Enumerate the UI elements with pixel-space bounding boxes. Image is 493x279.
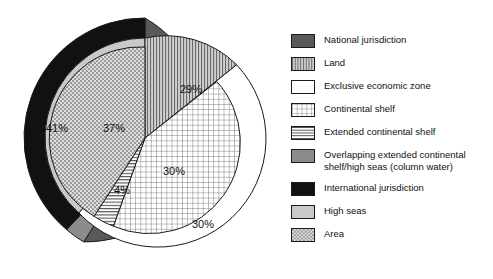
legend-label-exclusive-economic-zone: Exclusive economic zone bbox=[324, 79, 431, 92]
legend-label-national-jurisdiction: National jurisdiction bbox=[324, 33, 406, 46]
legend-label-international-jurisdiction: International jurisdiction bbox=[324, 181, 424, 194]
data-label-land: 29% bbox=[180, 83, 202, 95]
swatch-vertical-lines-icon bbox=[291, 57, 315, 71]
legend-label-continental-shelf: Continental shelf bbox=[324, 102, 395, 115]
pie-chart-graphic: 29% 30% 30% 4% 37% 41% bbox=[0, 0, 300, 279]
legend-label-high-seas: High seas bbox=[324, 204, 366, 217]
legend-item-national-jurisdiction: National jurisdiction bbox=[291, 33, 491, 53]
legend-label-extended-continental-shelf: Extended continental shelf bbox=[324, 125, 435, 138]
data-label-continental-shelf: 30% bbox=[163, 165, 185, 177]
legend-item-land: Land bbox=[291, 56, 491, 76]
data-label-exclusive-economic-zone: 30% bbox=[192, 218, 214, 230]
swatch-solid-light-gray-icon bbox=[291, 205, 315, 219]
legend-item-high-seas: High seas bbox=[291, 204, 491, 224]
data-label-area: 37% bbox=[103, 122, 125, 134]
legend-item-area: Area bbox=[291, 227, 491, 247]
pie-chart-figure: 29% 30% 30% 4% 37% 41% National jurisdic… bbox=[0, 0, 493, 279]
legend-item-international-jurisdiction: International jurisdiction bbox=[291, 181, 491, 201]
legend-item-extended-continental-shelf: Extended continental shelf bbox=[291, 125, 491, 145]
legend-label-land: Land bbox=[324, 56, 345, 69]
data-label-extended-continental-shelf: 4% bbox=[114, 184, 130, 196]
legend-item-overlapping-shelf-high-seas: Overlapping extended continental shelf/h… bbox=[291, 148, 491, 178]
swatch-solid-dark-gray-icon bbox=[291, 34, 315, 48]
swatch-solid-black-icon bbox=[291, 182, 315, 196]
legend-label-overlapping-shelf-high-seas: Overlapping extended continental shelf/h… bbox=[324, 148, 466, 172]
legend-label-area: Area bbox=[324, 227, 344, 240]
swatch-solid-medium-gray-icon bbox=[291, 149, 315, 163]
legend-item-continental-shelf: Continental shelf bbox=[291, 102, 491, 122]
swatch-grid-icon bbox=[291, 103, 315, 117]
chart-legend: National jurisdiction Land Exclusive eco… bbox=[291, 33, 491, 250]
legend-item-exclusive-economic-zone: Exclusive economic zone bbox=[291, 79, 491, 99]
data-label-high-seas: 41% bbox=[46, 122, 68, 134]
swatch-cross-dots-icon bbox=[291, 228, 315, 242]
swatch-blank-icon bbox=[291, 80, 315, 94]
swatch-horizontal-lines-icon bbox=[291, 126, 315, 140]
